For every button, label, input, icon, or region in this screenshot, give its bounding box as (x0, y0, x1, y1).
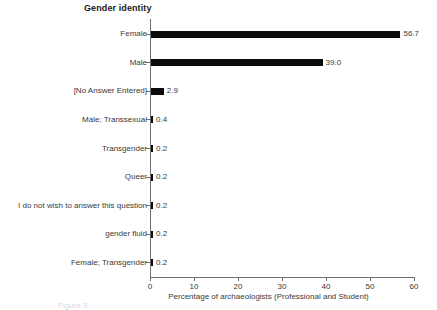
bar (151, 88, 164, 95)
bar (151, 145, 153, 152)
bar-value-label: 0.2 (156, 228, 167, 239)
bar (151, 231, 153, 238)
page-caption: Figure 3 (58, 301, 87, 310)
x-axis-tick (194, 277, 195, 281)
x-axis-tick (238, 277, 239, 281)
category-label: Male (130, 57, 147, 68)
category-label: Female (120, 28, 147, 39)
x-axis-tick-label: 0 (148, 282, 152, 292)
x-axis-tick-label: 30 (278, 282, 287, 292)
category-label: Male; Transsexual (82, 114, 147, 125)
x-axis-tick (414, 277, 415, 281)
category-label: Female; Transgender (71, 257, 147, 268)
bar-value-label: 0.2 (156, 143, 167, 154)
bar-value-label: 0.2 (156, 171, 167, 182)
bar-value-label: 39.0 (326, 57, 342, 68)
chart-title: Gender identity (84, 3, 152, 13)
category-label: I do not wish to answer this question (18, 200, 147, 211)
bar (151, 259, 153, 266)
bar-value-label: 0.2 (156, 200, 167, 211)
x-axis-tick (370, 277, 371, 281)
bar (151, 116, 153, 123)
x-axis-tick-label: 50 (366, 282, 375, 292)
x-axis-tick (326, 277, 327, 281)
category-label: Queer (125, 171, 147, 182)
bar-value-label: 56.7 (403, 28, 419, 39)
bar (151, 202, 153, 209)
x-axis-tick-label: 20 (234, 282, 243, 292)
x-axis-title: Percentage of archaeologists (Profession… (0, 292, 437, 301)
category-label: Transgender (102, 143, 147, 154)
bar (151, 174, 153, 181)
bar-value-label: 0.4 (156, 114, 167, 125)
x-axis-tick-label: 60 (410, 282, 419, 292)
bar-value-label: 0.2 (156, 257, 167, 268)
bar (151, 59, 323, 66)
x-axis-tick-label: 40 (322, 282, 331, 292)
bar (151, 31, 400, 38)
x-axis-tick-label: 10 (190, 282, 199, 292)
category-label: [No Answer Entered] (74, 85, 147, 96)
x-axis-tick (282, 277, 283, 281)
category-label: gender fluid (105, 228, 147, 239)
bar-value-label: 2.9 (167, 85, 178, 96)
x-axis-tick (150, 277, 151, 281)
